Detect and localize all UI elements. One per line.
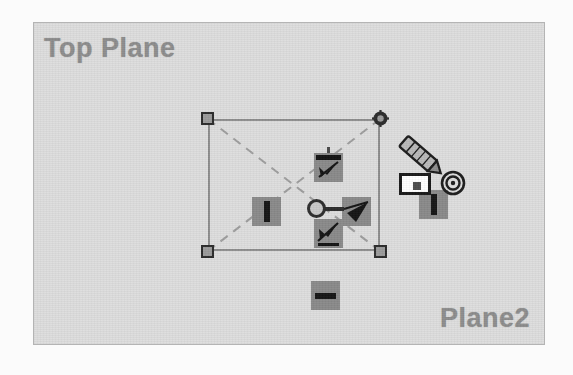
arrow-down-icon [314,219,343,248]
horizontal-bar-icon [315,293,336,299]
top-plane-label: Top Plane [44,33,176,64]
cad-viewport[interactable]: Top Plane Plane2 [33,22,545,345]
arrow-up-icon [314,153,343,182]
manipulator-arrow-down[interactable] [314,219,343,248]
dimension-chip-left[interactable] [252,197,281,226]
manipulator-center-node[interactable] [307,199,326,218]
vertical-bar-icon [264,201,270,222]
plane2-label: Plane2 [440,303,530,334]
corner-handle-bottom-right[interactable] [374,245,387,258]
manipulator-arm [325,207,344,211]
corner-handle-top-right-rotate-node[interactable] [372,110,389,127]
bullseye-target-icon[interactable] [440,170,466,196]
corner-handle-bottom-left[interactable] [201,245,214,258]
callout-marker-icon [413,182,421,190]
dimension-chip-bottom[interactable] [311,281,340,310]
plane-move-manipulator[interactable] [296,147,362,247]
corner-handle-top-left[interactable] [201,112,214,125]
vertical-bar-icon [431,194,437,215]
dimension-callout-box[interactable] [399,173,431,195]
arrow-right-icon [342,197,371,226]
manipulator-arrow-right[interactable] [342,197,371,226]
manipulator-arrow-up[interactable] [314,153,343,182]
